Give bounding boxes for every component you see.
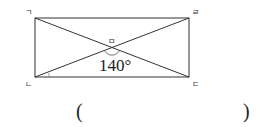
vertex-label-top-right: ㄹ [192, 8, 199, 17]
intersection-label: ㅁ [108, 37, 115, 46]
vertex-label-bottom-left: ㄴ [25, 80, 32, 89]
answer-close-paren: ) [243, 100, 250, 123]
angle-value-label: 140° [99, 56, 131, 75]
angle-arc-140 [105, 51, 119, 55]
rectangle-diagram: ㄱ ㄹ ㄴ ㄷ ㅁ 140° ( ) [0, 0, 257, 127]
vertex-label-top-left: ㄱ [25, 8, 32, 17]
vertex-label-bottom-right: ㄷ [192, 80, 199, 89]
answer-open-paren: ( [76, 100, 83, 123]
